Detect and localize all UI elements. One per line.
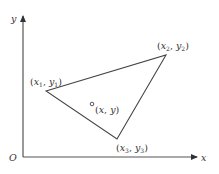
diagram-svg: y x O (x1, y1) (x2, y2) (x3, y3) (x, y) [0, 0, 219, 174]
interior-point-marker [90, 102, 94, 106]
x-axis-label: x [201, 152, 207, 163]
diagram-canvas: y x O (x1, y1) (x2, y2) (x3, y3) (x, y) [0, 0, 219, 174]
vertex-2-label: (x2, y2) [157, 40, 189, 52]
triangle [46, 55, 166, 139]
vertex-1-label: (x1, y1) [30, 76, 62, 88]
interior-point-label: (x, y) [95, 104, 119, 115]
y-axis-label: y [10, 13, 17, 24]
vertex-3-label: (x3, y3) [116, 142, 148, 154]
origin-label: O [9, 152, 17, 163]
